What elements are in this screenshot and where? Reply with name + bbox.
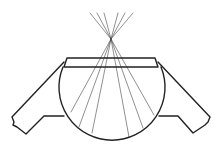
lens-ray: [111, 39, 143, 128]
left-mount: [12, 62, 64, 134]
incoming-ray: [90, 13, 111, 39]
lens-ray: [92, 39, 111, 133]
lens-ray: [111, 39, 129, 137]
lens-diagram: [0, 0, 222, 144]
incoming-ray: [111, 13, 125, 39]
lens-ray: [111, 39, 154, 115]
incoming-ray: [97, 13, 111, 39]
lens-ray: [71, 39, 111, 112]
incoming-rays: [90, 13, 133, 39]
lens-flat-top: [64, 58, 158, 67]
lens-rays: [71, 39, 154, 137]
lens-ray: [79, 39, 111, 127]
lens-sphere: [59, 67, 165, 140]
right-mount: [158, 62, 210, 133]
